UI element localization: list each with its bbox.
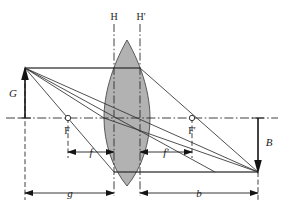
label-focal-point-F-prime: F': [188, 125, 196, 136]
dimension-g-arrow-right: [106, 190, 115, 196]
lens-group: [104, 40, 150, 186]
focal-point-F-marker: [65, 115, 70, 120]
lens-biconvex-shape: [104, 40, 150, 186]
ray-object-base-to-axis: [25, 68, 104, 118]
label-focal-point-F: F: [64, 125, 70, 136]
object-arrow-group: [19, 66, 31, 118]
label-image-height-B: B: [266, 136, 273, 148]
focal-point-Fprime-marker: [189, 115, 194, 120]
ray-diagram-canvas: H H' G B F F' f f' g b: [0, 0, 284, 215]
optics-ray-diagram: H H' G B F F' f f' g b: [0, 0, 284, 215]
image-arrow-group: [252, 118, 264, 174]
label-principal-plane-H: H: [110, 11, 117, 22]
label-object-distance-g: g: [67, 187, 73, 199]
label-image-distance-b: b: [196, 187, 202, 199]
label-focal-length-f-prime: f': [163, 146, 169, 158]
ray-parallel-refracted: [140, 68, 258, 172]
label-principal-plane-H-prime: H': [136, 11, 145, 22]
dimension-b-arrow-left: [139, 190, 148, 196]
label-object-height-G: G: [9, 87, 17, 99]
